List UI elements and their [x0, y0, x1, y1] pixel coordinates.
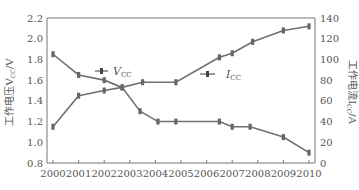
y-right-tick-label: 80: [320, 75, 333, 86]
axes: 0.81.01.21.41.61.82.02.20204060801001201…: [27, 13, 339, 180]
data-point-marker: [121, 84, 124, 90]
x-tick-label: 2004: [143, 168, 168, 179]
y-right-tick-label: 120: [320, 33, 339, 44]
x-tick-label: 2006: [194, 168, 219, 179]
data-point-marker: [231, 50, 234, 56]
data-point-marker: [218, 54, 221, 60]
data-point-marker: [77, 93, 80, 99]
data-point-marker: [174, 79, 177, 85]
legend-marker-icc: [206, 71, 209, 77]
y-right-axis-title: 工作电流ICC/A: [346, 60, 359, 125]
y-left-tick-label: 1.0: [27, 137, 43, 148]
data-point-marker: [103, 88, 106, 94]
data-point-marker: [174, 119, 177, 125]
data-point-marker: [218, 119, 221, 125]
x-tick-label: 2002: [91, 168, 116, 179]
data-point-marker: [141, 79, 144, 85]
series-line-vcc: [53, 54, 309, 152]
data-point-marker: [156, 119, 159, 125]
y-right-tick-label: 0: [320, 158, 326, 169]
x-tick-label: 2009: [271, 168, 296, 179]
x-tick-label: 2005: [168, 168, 193, 179]
y-right-tick-label: 60: [320, 95, 333, 106]
legend-marker-vcc: [100, 68, 103, 74]
series-lines: [51, 23, 310, 155]
legend-label-icc: ICC: [225, 68, 241, 82]
x-tick-label: 2003: [117, 168, 142, 179]
x-tick-label: 2007: [219, 168, 244, 179]
data-point-marker: [282, 134, 285, 140]
data-point-marker: [307, 23, 310, 29]
y-right-tick-label: 20: [320, 137, 333, 148]
y-left-axis-title: 工作电压VCC/V: [3, 58, 16, 126]
data-point-marker: [231, 124, 234, 130]
x-tick-label: 2008: [245, 168, 270, 179]
y-left-tick-label: 1.6: [27, 75, 43, 86]
x-tick-label: 2000: [40, 168, 65, 179]
axis-labels: 工作电压VCC/V工作电流ICC/A: [3, 58, 359, 126]
x-tick-label: 2001: [66, 168, 91, 179]
y-right-tick-label: 100: [320, 54, 339, 65]
data-point-marker: [251, 39, 254, 45]
data-point-marker: [77, 72, 80, 78]
y-left-tick-label: 2.2: [27, 13, 43, 24]
dual-axis-line-chart: 0.81.01.21.41.61.82.02.20204060801001201…: [0, 0, 359, 190]
y-right-tick-label: 40: [320, 116, 333, 127]
data-point-marker: [51, 124, 54, 130]
series-line-icc: [53, 26, 309, 126]
data-point-marker: [307, 150, 310, 156]
legend-label-vcc: VCC: [113, 65, 132, 79]
data-point-marker: [51, 51, 54, 57]
data-point-marker: [282, 27, 285, 33]
data-point-marker: [249, 124, 252, 130]
y-right-tick-label: 140: [320, 13, 339, 24]
y-left-tick-label: 2.0: [27, 33, 43, 44]
y-left-tick-label: 1.4: [27, 95, 43, 106]
y-left-tick-label: 0.8: [27, 158, 43, 169]
y-left-tick-label: 1.8: [27, 54, 43, 65]
data-point-marker: [103, 77, 106, 83]
data-point-marker: [138, 108, 141, 114]
legend-annotations: VCCICC: [95, 65, 241, 82]
y-left-tick-label: 1.2: [27, 116, 43, 127]
x-tick-label: 2010: [296, 168, 321, 179]
